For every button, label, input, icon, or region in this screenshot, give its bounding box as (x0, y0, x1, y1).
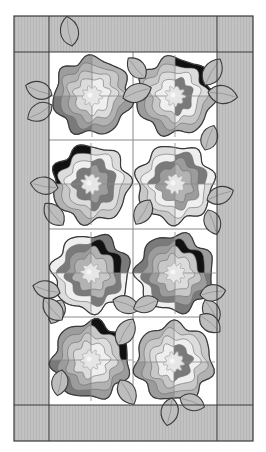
flower-center-highlight (171, 181, 176, 186)
flower-center-highlight (87, 357, 92, 362)
flower-center-highlight (87, 270, 92, 275)
quilt-illustration (0, 0, 266, 452)
flower-center-highlight (171, 270, 176, 275)
flower-center-highlight (171, 93, 176, 98)
flower-center-highlight (88, 93, 93, 98)
flower-center-highlight (87, 181, 92, 186)
flower-center-highlight (170, 359, 175, 364)
